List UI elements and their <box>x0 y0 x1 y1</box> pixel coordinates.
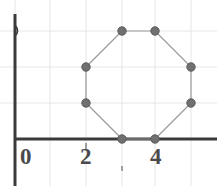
vertex-marker-top-left[interactable] <box>118 27 126 35</box>
x-tick-label: 4 <box>150 145 162 168</box>
octagon-vertex-markers <box>82 27 195 143</box>
vertex-marker-bottom-left[interactable] <box>118 135 126 143</box>
vertex-marker-upper-right[interactable] <box>187 63 195 71</box>
vertex-marker-lower-right[interactable] <box>187 99 195 107</box>
octagon-outline <box>86 31 191 139</box>
coordinate-plot-svg <box>0 0 217 186</box>
axis-lines <box>15 14 217 186</box>
vertex-marker-upper-left[interactable] <box>82 63 90 71</box>
vertex-marker-lower-left[interactable] <box>82 99 90 107</box>
octagon-edges <box>86 31 191 139</box>
grid-lines <box>0 0 217 186</box>
vertex-marker-top-right[interactable] <box>151 27 159 35</box>
x-tick-label: 2 <box>80 145 92 168</box>
x-tick-label: 0 <box>20 145 32 168</box>
vertex-marker-bottom-right[interactable] <box>151 135 159 143</box>
plot-canvas: 024 <box>0 0 217 186</box>
